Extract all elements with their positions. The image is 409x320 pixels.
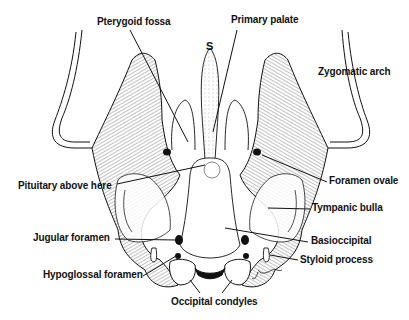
label-primary-palate: Primary palate (231, 14, 299, 26)
anatomical-figure: S Pterygoid fossa Primary palate Zygomat… (0, 0, 409, 320)
left-zygomatic-arch (52, 30, 92, 148)
label-hypoglossal-foramen: Hypoglossal foramen (43, 269, 143, 281)
label-zygomatic-arch: Zygomatic arch (318, 66, 391, 78)
left-skull-half (92, 53, 180, 287)
occipital-condyles-shape (169, 259, 250, 285)
label-basioccipital: Basioccipital (311, 235, 371, 247)
label-pituitary: Pituitary above here (18, 180, 112, 192)
label-jugular-foramen: Jugular foramen (33, 232, 110, 244)
label-styloid-process: Styloid process (300, 254, 373, 266)
right-skull-half (240, 53, 328, 287)
label-tympanic-bulla: Tympanic bulla (312, 202, 383, 214)
basioccipital-shape (180, 158, 240, 258)
label-foramen-ovale: Foramen ovale (329, 175, 398, 187)
right-zygomatic-arch (328, 30, 370, 148)
label-pterygoid-fossa: Pterygoid fossa (97, 16, 171, 28)
primary-palate-shape (201, 48, 218, 160)
label-occipital-condyles: Occipital condyles (171, 296, 258, 308)
center-marker-s: S (206, 40, 213, 52)
